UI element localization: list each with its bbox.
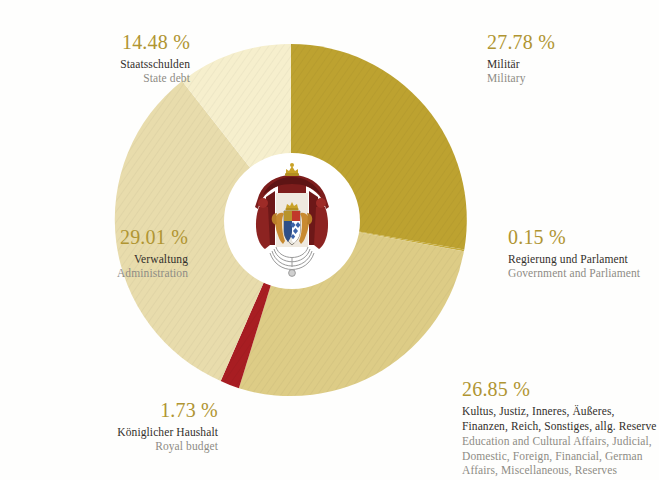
pie-chart-figure: 14.48 % Staatsschulden State debt 27.78 …	[0, 0, 659, 480]
slice-label-administration: 29.01 % Verwaltung Administration	[8, 225, 188, 280]
slice-label-royal-budget: 1.73 % Königlicher Haushalt Royal budget	[40, 398, 218, 453]
slice-label-government: 0.15 % Regierung und Parlament Governmen…	[508, 225, 656, 280]
slice-percent-administration: 29.01 %	[8, 225, 188, 249]
slice-name-de-government: Regierung und Parlament	[508, 252, 656, 266]
slice-name-en-administration: Administration	[8, 266, 188, 280]
slice-name-en-state-debt: State debt	[12, 71, 190, 85]
royal-coat-of-arms-icon	[246, 163, 338, 279]
slice-name-de-state-debt: Staatsschulden	[12, 57, 190, 71]
slice-name-de-administration: Verwaltung	[8, 252, 188, 266]
slice-name-en-military: Military	[487, 71, 652, 85]
slice-name-de-other: Kultus, Justiz, Inneres, Äußeres, Finanz…	[462, 404, 658, 433]
slice-label-other: 26.85 % Kultus, Justiz, Inneres, Äußeres…	[462, 377, 658, 478]
slice-name-de-military: Militär	[487, 57, 652, 71]
slice-percent-other: 26.85 %	[462, 377, 658, 401]
slice-name-en-other: Education and Cultural Affairs, Judicial…	[462, 434, 658, 478]
slice-label-military: 27.78 % Militär Military	[487, 30, 652, 85]
slice-percent-royal-budget: 1.73 %	[40, 398, 218, 422]
slice-name-en-royal-budget: Royal budget	[40, 439, 218, 453]
slice-label-state-debt: 14.48 % Staatsschulden State debt	[12, 30, 190, 85]
slice-name-en-government: Government and Parliament	[508, 266, 656, 280]
slice-percent-state-debt: 14.48 %	[12, 30, 190, 54]
slice-percent-military: 27.78 %	[487, 30, 652, 54]
slice-name-de-royal-budget: Königlicher Haushalt	[40, 425, 218, 439]
slice-percent-government: 0.15 %	[508, 225, 656, 249]
